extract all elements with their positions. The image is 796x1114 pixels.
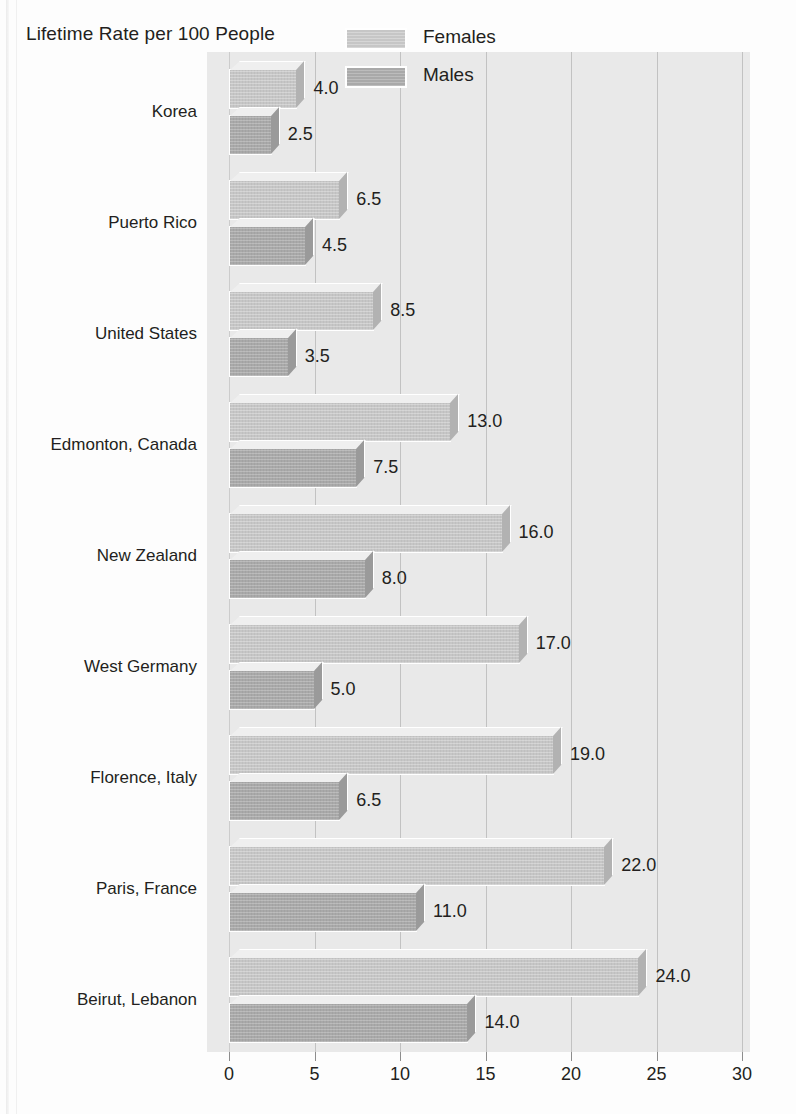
bar-body	[229, 69, 297, 109]
bar-top-face	[230, 283, 383, 292]
axis-tick-0	[229, 1052, 230, 1061]
bar-value-label: 8.0	[382, 568, 407, 589]
bar-value-label: 4.5	[322, 235, 347, 256]
bar-value-label: 13.0	[467, 411, 502, 432]
bar-males-3: 7.5	[229, 448, 357, 488]
bar-value-label: 4.0	[313, 78, 338, 99]
legend-swatch-females-icon	[345, 28, 407, 50]
bar-males-5: 5.0	[229, 670, 315, 710]
bar-value-label: 2.5	[288, 124, 313, 145]
category-label-paris-france: Paris, France	[96, 879, 197, 899]
legend-label-males: Males	[423, 64, 474, 86]
axis-tick-25	[657, 1052, 658, 1061]
bar-males-0: 2.5	[229, 115, 272, 155]
axis-tick-label-30: 30	[732, 1064, 752, 1085]
bar-top-face	[230, 394, 460, 403]
category-label-puerto-rico: Puerto Rico	[108, 213, 197, 233]
bar-top-face	[230, 616, 529, 625]
bar-males-1: 4.5	[229, 226, 306, 266]
bar-top-face	[230, 61, 306, 70]
bar-value-label: 19.0	[570, 744, 605, 765]
gridline-25	[657, 52, 658, 1052]
chart-page: Lifetime Rate per 100 People 4.02.56.54.…	[0, 0, 796, 1114]
bar-body	[229, 337, 289, 377]
axis-tick-label-20: 20	[561, 1064, 581, 1085]
bar-body	[229, 1003, 468, 1043]
bar-top-face	[230, 727, 563, 736]
bar-body	[229, 846, 605, 886]
bar-males-7: 11.0	[229, 892, 417, 932]
bar-females-6: 19.0	[229, 735, 554, 775]
bar-females-4: 16.0	[229, 513, 503, 553]
bar-females-3: 13.0	[229, 402, 451, 442]
bar-value-label: 5.0	[331, 679, 356, 700]
bar-value-label: 6.5	[356, 189, 381, 210]
bar-body	[229, 624, 520, 664]
axis-tick-10	[400, 1052, 401, 1061]
bar-body	[229, 180, 340, 220]
bar-males-8: 14.0	[229, 1003, 468, 1043]
category-label-axis: KoreaPuerto RicoUnited StatesEdmonton, C…	[0, 52, 197, 1052]
bar-value-label: 17.0	[536, 633, 571, 654]
bar-body	[229, 226, 306, 266]
bar-top-face	[230, 995, 477, 1004]
bar-females-1: 6.5	[229, 180, 340, 220]
category-label-west-germany: West Germany	[84, 657, 197, 677]
category-label-korea: Korea	[152, 102, 197, 122]
axis-tick-5	[315, 1052, 316, 1061]
bar-body	[229, 513, 503, 553]
category-label-edmonton-canada: Edmonton, Canada	[51, 435, 198, 455]
bar-males-4: 8.0	[229, 559, 366, 599]
bar-body	[229, 559, 366, 599]
axis-tick-label-15: 15	[475, 1064, 495, 1085]
bar-top-face	[230, 551, 375, 560]
category-label-united-states: United States	[95, 324, 197, 344]
legend-swatch-males-icon	[345, 66, 407, 88]
bar-body	[229, 402, 451, 442]
bar-body	[229, 957, 639, 997]
legend-label-females: Females	[423, 26, 496, 48]
axis-tick-label-0: 0	[224, 1064, 234, 1085]
bar-body	[229, 892, 417, 932]
bar-females-8: 24.0	[229, 957, 639, 997]
bar-value-label: 22.0	[621, 855, 656, 876]
bar-females-7: 22.0	[229, 846, 605, 886]
bar-value-label: 16.0	[519, 522, 554, 543]
category-label-new-zealand: New Zealand	[97, 546, 197, 566]
bar-body	[229, 291, 374, 331]
bar-males-2: 3.5	[229, 337, 289, 377]
bar-top-face	[230, 884, 426, 893]
axis-tick-label-5: 5	[309, 1064, 319, 1085]
bar-body	[229, 735, 554, 775]
bar-body	[229, 115, 272, 155]
bar-top-face	[230, 949, 648, 958]
bar-value-label: 24.0	[655, 967, 690, 988]
bar-males-6: 6.5	[229, 781, 340, 821]
category-label-beirut-lebanon: Beirut, Lebanon	[77, 990, 197, 1010]
axis-tick-label-10: 10	[390, 1064, 410, 1085]
bar-top-face	[230, 773, 349, 782]
bar-body	[229, 670, 315, 710]
bar-body	[229, 781, 340, 821]
bar-females-2: 8.5	[229, 291, 374, 331]
gridline-30	[742, 52, 743, 1052]
axis-tick-label-25: 25	[646, 1064, 666, 1085]
axis-tick-20	[571, 1052, 572, 1061]
bar-value-label: 11.0	[433, 901, 467, 922]
bar-value-label: 8.5	[390, 300, 415, 321]
bar-value-label: 7.5	[373, 457, 398, 478]
axis-tick-30	[742, 1052, 743, 1061]
bar-females-0: 4.0	[229, 69, 297, 109]
bar-body	[229, 448, 357, 488]
bar-top-face	[230, 838, 614, 847]
axis-tick-15	[486, 1052, 487, 1061]
gridline-20	[571, 52, 572, 1052]
chart-title: Lifetime Rate per 100 People	[26, 23, 275, 45]
bar-top-face	[230, 662, 323, 671]
category-label-florence-italy: Florence, Italy	[90, 768, 197, 788]
bar-value-label: 6.5	[356, 790, 381, 811]
x-axis: 051015202530	[207, 1052, 750, 1092]
bar-top-face	[230, 440, 366, 449]
bar-top-face	[230, 505, 512, 514]
bar-top-face	[230, 218, 315, 227]
